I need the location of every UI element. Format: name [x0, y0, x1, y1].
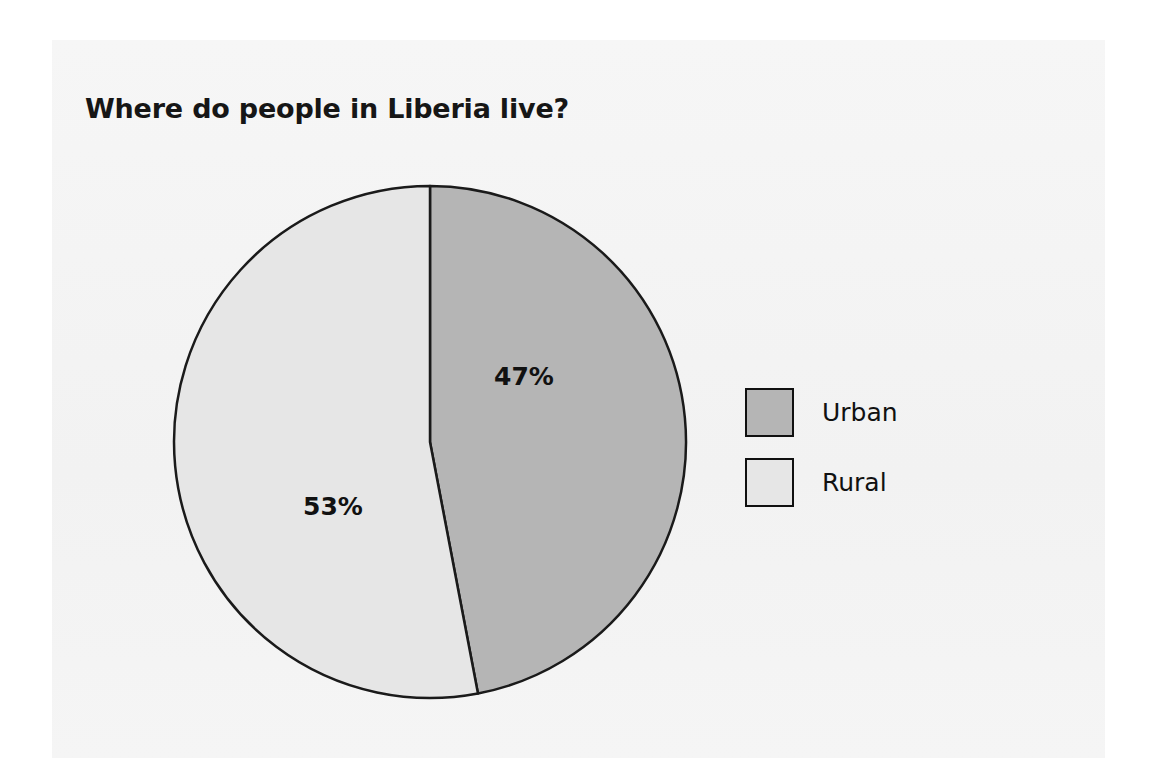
legend-item-rural[interactable]: Rural — [745, 454, 1005, 510]
page-title: Where do people in Liberia live? — [85, 93, 569, 124]
legend-swatch-urban-icon — [745, 388, 794, 437]
legend-item-urban[interactable]: Urban — [745, 384, 1005, 440]
legend-label-urban: Urban — [822, 398, 898, 427]
legend-label-rural: Rural — [822, 468, 887, 497]
pie-chart-svg — [168, 180, 692, 704]
chart-legend: Urban Rural — [745, 384, 1005, 524]
pie-chart — [168, 180, 692, 704]
pie-slice-urban[interactable] — [430, 186, 686, 693]
pie-slice-label-urban: 47% — [494, 362, 554, 391]
pie-slice-label-rural: 53% — [303, 492, 363, 521]
chart-canvas: Where do people in Liberia live? 47% 53%… — [0, 0, 1157, 758]
legend-swatch-rural-icon — [745, 458, 794, 507]
